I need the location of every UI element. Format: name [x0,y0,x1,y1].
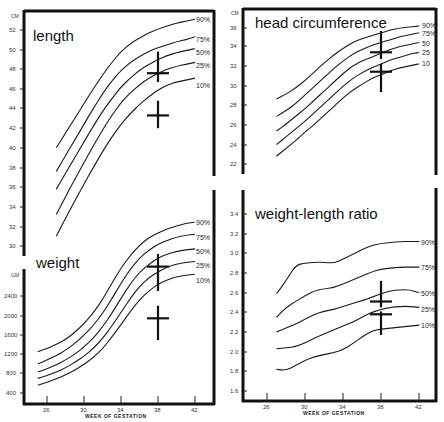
svg-text:90%: 90% [196,16,210,23]
svg-text:2.4: 2.4 [230,309,239,315]
svg-text:50: 50 [422,40,430,47]
svg-text:52: 52 [9,27,16,33]
svg-text:26: 26 [43,407,50,413]
svg-text:36: 36 [230,25,237,31]
svg-text:800: 800 [6,370,17,376]
left-x-axis: 26 30 34 38 42 WEEK OF GESTATION [43,396,198,419]
svg-text:10%: 10% [421,322,435,329]
svg-text:1.8: 1.8 [230,368,239,374]
svg-text:42: 42 [191,407,198,413]
percentile-curve-25 [56,62,195,214]
right-x-axis: 26 30 34 38 42 WEEK OF GESTATION [263,393,422,416]
head-unit: CM [231,10,239,16]
svg-text:1.6: 1.6 [230,388,239,394]
weight-percentile-labels: 90% 75% 50% 25% 10% [196,219,210,284]
svg-text:3.2: 3.2 [230,231,239,237]
svg-text:25%: 25% [421,306,435,313]
wlr-percentile-labels: 90% 75% 50% 25% 10% [421,239,435,329]
svg-text:2.8: 2.8 [230,270,239,276]
head-curves [277,26,420,156]
svg-text:32: 32 [9,224,16,230]
svg-text:10: 10 [422,60,430,67]
percentile-curve-25 [277,52,420,144]
svg-text:38: 38 [9,165,16,171]
length-title: length [33,27,74,44]
wlr-curves [277,242,420,370]
svg-text:40: 40 [9,145,16,151]
svg-text:50: 50 [9,47,16,53]
svg-text:400: 400 [6,390,17,396]
svg-text:90%: 90% [422,22,436,29]
percentile-curve-90 [56,19,195,148]
svg-text:30: 30 [230,83,237,89]
growth-charts: length weight head circumference weight-… [0,0,444,422]
length-unit: CM [11,13,19,19]
svg-text:38: 38 [377,404,384,410]
svg-text:90%: 90% [421,239,435,246]
svg-text:32: 32 [230,63,237,69]
svg-text:10%: 10% [196,82,210,89]
svg-text:3.0: 3.0 [230,250,239,256]
svg-text:10%: 10% [196,277,210,284]
length-percentile-labels: 90% 75% 50% 25% 10% [196,16,210,89]
weight-title: weight [35,254,80,271]
right-x-label: WEEK OF GESTATION [303,410,365,416]
percentile-curve-50 [277,290,420,332]
svg-text:2000: 2000 [4,313,18,319]
percentile-curve-90 [38,222,195,352]
head-percentile-labels: 90% 75% 50 25 10 [422,22,436,67]
svg-text:2.2: 2.2 [230,329,239,335]
svg-text:75%: 75% [422,30,436,37]
svg-text:26: 26 [230,122,237,128]
svg-text:75%: 75% [421,264,435,271]
svg-text:50%: 50% [196,49,210,56]
weight-y-axis: 2400 2000 1600 1200 800 400 [4,293,24,396]
svg-text:30: 30 [9,243,16,249]
svg-text:44: 44 [9,105,16,111]
svg-text:46: 46 [9,86,16,92]
svg-text:24: 24 [230,142,237,148]
svg-text:25%: 25% [196,262,210,269]
weight-length-ratio-title: weight-length ratio [254,205,378,222]
weight-unit: GM [11,272,19,278]
svg-text:2.6: 2.6 [230,290,239,296]
svg-text:75%: 75% [196,234,210,241]
head-circumference-title: head circumference [255,14,387,31]
svg-text:28: 28 [230,102,237,108]
svg-text:38: 38 [154,407,161,413]
svg-text:50%: 50% [196,248,210,255]
percentile-curve-75 [56,37,195,172]
svg-text:34: 34 [9,204,16,210]
svg-text:2.0: 2.0 [230,349,239,355]
svg-text:2400: 2400 [4,293,18,299]
svg-text:42: 42 [415,404,422,410]
percentile-curve-10 [56,78,195,236]
svg-text:90%: 90% [196,219,210,226]
svg-text:34: 34 [230,43,237,49]
svg-text:3.4: 3.4 [230,211,239,217]
svg-text:48: 48 [9,66,16,72]
weight-curves [38,222,195,385]
length-y-axis: 52 50 48 46 44 42 40 38 36 34 32 30 [9,27,24,249]
svg-text:1200: 1200 [4,351,18,357]
left-x-label: WEEK OF GESTATION [85,413,147,419]
length-curves [56,19,195,236]
svg-text:25%: 25% [196,62,210,69]
svg-text:50%: 50% [421,290,435,297]
svg-text:36: 36 [9,184,16,190]
percentile-curve-10 [277,325,420,370]
svg-text:1600: 1600 [4,332,18,338]
svg-text:75%: 75% [196,36,210,43]
svg-text:26: 26 [263,404,270,410]
svg-text:42: 42 [9,125,16,131]
percentile-curve-75 [277,267,420,317]
percentile-curve-10 [277,64,420,156]
svg-text:22: 22 [230,161,237,167]
svg-text:25: 25 [422,49,430,56]
